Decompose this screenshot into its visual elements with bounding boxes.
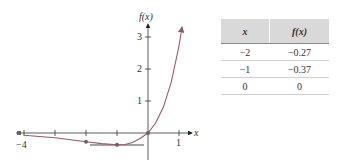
table-row: −2 −0.27 xyxy=(221,44,329,61)
x-tick-label-neg4: −4 xyxy=(16,139,27,150)
y-tick-label-1: 1 xyxy=(137,95,142,106)
cell-fx: −0.27 xyxy=(270,44,330,61)
cell-fx: −0.37 xyxy=(270,61,330,78)
table-row: 0 0 xyxy=(221,78,329,95)
function-curve xyxy=(24,27,182,145)
cell-x: 0 xyxy=(221,78,270,95)
header-x: x xyxy=(221,19,270,44)
table-header-row: x f(x) xyxy=(221,19,329,44)
x-axis-label: x xyxy=(193,127,199,138)
cell-x: −2 xyxy=(221,44,270,61)
point-x-neg4 xyxy=(17,131,21,135)
values-table: x f(x) −2 −0.27 −1 −0.37 0 0 xyxy=(221,19,329,95)
table-row: −1 −0.37 xyxy=(221,61,329,78)
y-tick-label-3: 3 xyxy=(137,31,142,42)
point-origin xyxy=(146,131,150,135)
y-axis-label: f(x) xyxy=(139,11,154,23)
function-graph: −4 1 1 2 3 x f(x) xyxy=(0,0,215,165)
cell-fx: 0 xyxy=(270,78,330,95)
y-tick-label-2: 2 xyxy=(137,63,142,74)
cell-x: −1 xyxy=(221,61,270,78)
x-tick-label-1: 1 xyxy=(176,137,181,148)
point-x-neg1 xyxy=(115,143,119,147)
point-x-neg2 xyxy=(84,140,88,144)
header-fx: f(x) xyxy=(270,19,330,44)
